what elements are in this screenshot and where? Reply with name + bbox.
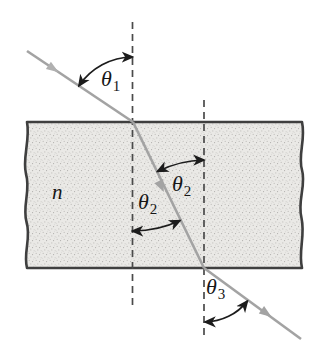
label-theta1: θ1 xyxy=(101,68,120,94)
label-theta3: θ3 xyxy=(206,276,225,302)
label-medium-index: n xyxy=(52,182,63,203)
angle-arc-theta3 xyxy=(205,301,247,322)
label-theta2-entry: θ2 xyxy=(138,191,157,217)
incident-ray-arrowhead-icon xyxy=(46,62,59,73)
refraction-diagram: θ1 θ2 θ2 θ3 n xyxy=(0,0,318,357)
transmitted-ray-arrowhead-icon xyxy=(259,306,272,317)
slab-medium xyxy=(25,122,303,268)
label-theta2-exit: θ2 xyxy=(172,173,191,199)
refraction-diagram-canvas xyxy=(0,0,318,357)
